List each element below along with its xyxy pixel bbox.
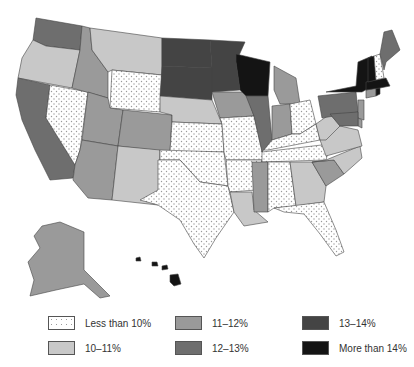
state-co xyxy=(118,110,172,152)
state-me xyxy=(380,30,400,70)
legend-label: 10–11% xyxy=(85,343,121,354)
state-ak xyxy=(28,222,110,298)
state-wy xyxy=(110,70,162,112)
legend-item-11-12: 11–12% xyxy=(175,315,248,331)
state-sd xyxy=(160,66,212,100)
legend-swatch-black xyxy=(302,341,329,355)
state-ms xyxy=(252,162,268,212)
state-nj xyxy=(358,100,364,120)
state-wi xyxy=(236,54,270,96)
legend-label: 12–13% xyxy=(212,343,249,354)
state-hi xyxy=(136,257,181,286)
state-fl xyxy=(274,202,344,256)
us-choropleth-map xyxy=(0,0,414,300)
state-de xyxy=(358,118,362,128)
legend-item-less-than-10: Less than 10% xyxy=(48,315,151,331)
legend: Less than 10% 10–11% 11–12% 12–13% 13–14… xyxy=(0,300,414,367)
legend-swatch-dotted xyxy=(48,316,75,330)
state-ks xyxy=(170,122,224,152)
legend-label: 11–12% xyxy=(212,318,248,329)
legend-item-more-than-14: More than 14% xyxy=(302,340,407,356)
legend-swatch-very-dark-gray xyxy=(302,316,329,330)
legend-swatch-light-gray xyxy=(48,341,75,355)
legend-label: More than 14% xyxy=(339,343,407,354)
legend-swatch-medium-gray xyxy=(175,316,202,330)
state-mi xyxy=(274,66,300,104)
legend-item-12-13: 12–13% xyxy=(175,340,249,356)
state-ri xyxy=(376,88,380,96)
legend-label: 13–14% xyxy=(339,318,376,329)
legend-item-10-11: 10–11% xyxy=(48,340,121,356)
state-nd xyxy=(162,38,212,68)
legend-swatch-dark-gray xyxy=(175,341,202,355)
legend-label: Less than 10% xyxy=(85,318,151,329)
legend-item-13-14: 13–14% xyxy=(302,315,376,331)
